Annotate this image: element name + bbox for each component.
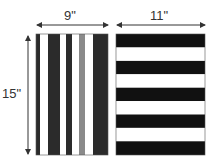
stripe <box>85 34 93 155</box>
stripe <box>116 141 205 155</box>
width-label-left: 9" <box>64 9 76 22</box>
diagram-canvas <box>0 0 215 165</box>
stripe <box>36 34 40 155</box>
stripe <box>116 61 205 74</box>
height-label: 15" <box>2 87 21 100</box>
stripe <box>93 34 108 155</box>
stripe <box>116 48 205 61</box>
width-label-right: 11" <box>150 9 168 22</box>
stripe <box>60 34 66 155</box>
stripe <box>72 34 79 155</box>
stripe <box>116 74 205 87</box>
vertical-stripe-panel <box>36 34 108 155</box>
stripe <box>116 34 205 48</box>
stripe <box>116 128 205 141</box>
stripe <box>79 34 85 155</box>
stripe <box>116 115 205 128</box>
stripe <box>116 88 205 101</box>
stripe <box>116 101 205 114</box>
stripe <box>48 34 60 155</box>
stripe <box>66 34 72 155</box>
horizontal-stripe-panel <box>116 34 205 155</box>
stripe <box>40 34 48 155</box>
